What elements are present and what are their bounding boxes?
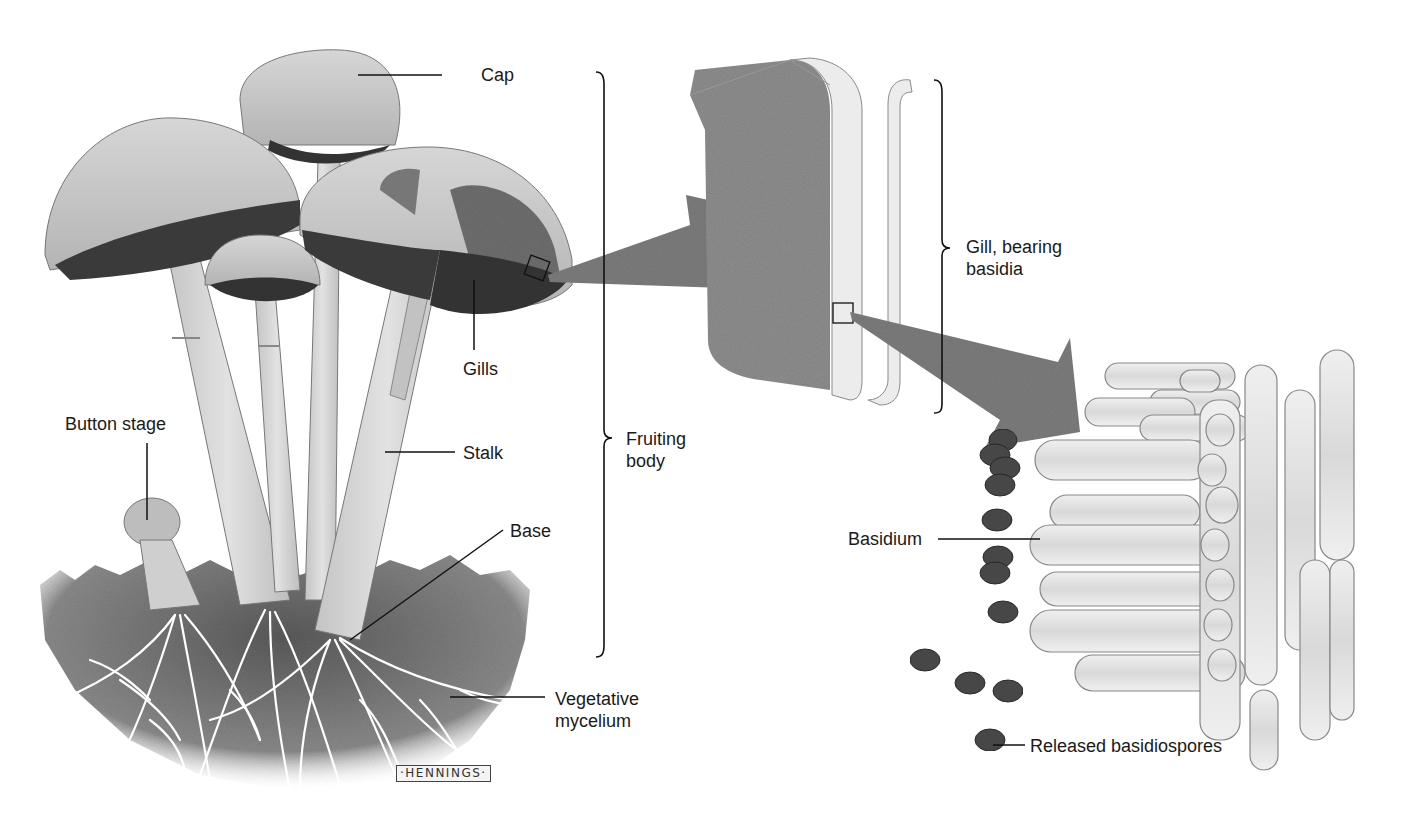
caps xyxy=(45,50,572,314)
fruiting-body-brace xyxy=(596,72,612,657)
magnify-arrow-2 xyxy=(850,312,1080,448)
artist-signature: ·HENNINGS· xyxy=(396,765,491,782)
label-button-stage: Button stage xyxy=(65,413,166,435)
label-gill-bearing-basidia: Gill, bearing basidia xyxy=(966,236,1062,280)
label-vegetative-mycelium: Vegetative mycelium xyxy=(555,688,639,732)
label-base: Base xyxy=(510,520,551,542)
label-basidium: Basidium xyxy=(848,528,922,550)
label-released-basidiospores: Released basidiospores xyxy=(1030,735,1222,757)
label-fruiting-body: Fruiting body xyxy=(626,428,686,472)
gill-section xyxy=(690,58,912,405)
illustration-canvas xyxy=(0,0,1403,819)
mushroom-anatomy-diagram: Cap Gills Stalk Base Button stage Vegeta… xyxy=(0,0,1403,819)
hyphae-cluster xyxy=(1030,350,1354,770)
label-gills: Gills xyxy=(463,358,498,380)
spores xyxy=(910,429,1023,751)
label-stalk: Stalk xyxy=(463,442,503,464)
label-cap: Cap xyxy=(481,64,514,86)
